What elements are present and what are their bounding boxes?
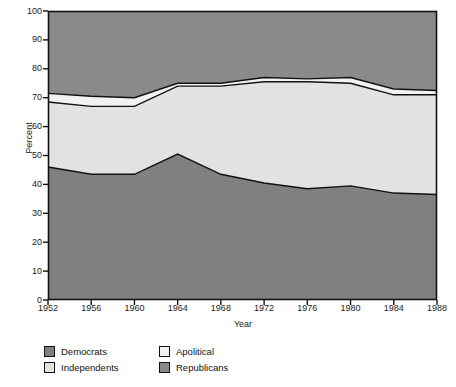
x-axis-title: Year	[48, 319, 438, 329]
legend-label: Republicans	[176, 362, 228, 373]
x-tick-label: 1968	[201, 303, 241, 313]
x-tick-label: 1976	[287, 303, 327, 313]
legend-swatch-icon	[159, 346, 170, 357]
legend-item-apolitical[interactable]: Apolitical	[159, 343, 274, 359]
legend-swatch-icon	[44, 362, 55, 373]
x-tick-label: 1960	[114, 303, 154, 313]
legend-swatch-icon	[44, 346, 55, 357]
legend-item-independents[interactable]: Independents	[44, 359, 159, 375]
area-chart: Percent 0102030405060708090100 195219561…	[0, 0, 456, 387]
legend-label: Apolitical	[176, 346, 214, 357]
legend-label: Independents	[61, 362, 119, 373]
x-tick-label: 1956	[71, 303, 111, 313]
legend-item-democrats[interactable]: Democrats	[44, 343, 159, 359]
x-tick-label: 1972	[244, 303, 284, 313]
x-tick-label: 1980	[331, 303, 371, 313]
chart-legend: DemocratsApoliticalIndependentsRepublica…	[44, 343, 344, 375]
x-tick-label: 1984	[374, 303, 414, 313]
x-tick-label: 1964	[158, 303, 198, 313]
legend-swatch-icon	[159, 362, 170, 373]
legend-item-republicans[interactable]: Republicans	[159, 359, 274, 375]
x-tick-label: 1988	[417, 303, 456, 313]
legend-label: Democrats	[61, 346, 107, 357]
x-tick-label: 1952	[28, 303, 68, 313]
